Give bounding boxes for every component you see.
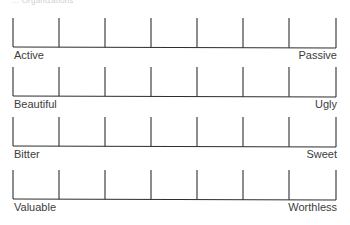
pole-label-right: Passive — [298, 50, 337, 61]
scale-baseline — [13, 96, 336, 97]
scale-ruler[interactable] — [0, 170, 350, 202]
scale-baseline — [13, 146, 336, 147]
pole-label-left: Bitter — [14, 149, 40, 160]
page-header-fragment: ... Organizations — [12, 0, 74, 5]
scale-ruler[interactable] — [0, 117, 350, 149]
scale-ruler[interactable] — [0, 18, 350, 50]
scale-baseline — [13, 47, 336, 48]
pole-label-right: Worthless — [288, 202, 337, 213]
pole-label-left: Beautiful — [14, 99, 57, 110]
scale-ruler[interactable] — [0, 67, 350, 99]
scale-baseline — [13, 199, 336, 200]
pole-label-left: Active — [14, 50, 44, 61]
pole-label-right: Ugly — [315, 99, 337, 110]
pole-label-left: Valuable — [14, 202, 56, 213]
pole-label-right: Sweet — [306, 149, 337, 160]
